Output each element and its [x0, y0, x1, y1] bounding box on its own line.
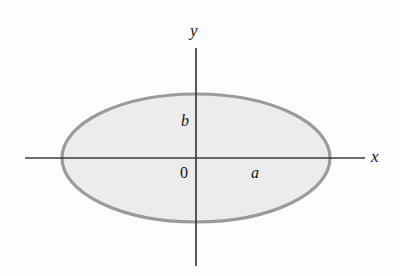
- ellipse-diagram: y x b a 0: [0, 0, 400, 276]
- y-axis-label: y: [190, 22, 198, 39]
- semi-minor-axis-label: b: [181, 113, 189, 129]
- diagram-canvas: [0, 0, 400, 276]
- origin-label: 0: [180, 165, 188, 181]
- semi-major-axis-label: a: [251, 165, 259, 181]
- x-axis-label: x: [371, 148, 379, 165]
